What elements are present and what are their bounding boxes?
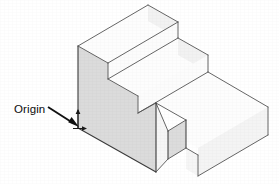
face-lower-slab-front-left <box>156 103 168 172</box>
isometric-figure-container: Origin <box>0 0 279 184</box>
face-lower-slab-notch-front <box>186 148 198 176</box>
origin-label: Origin <box>14 103 45 115</box>
origin-arrowhead-icon <box>68 117 79 127</box>
origin-annotation: Origin <box>14 103 87 131</box>
stepped-block-drawing: Origin <box>0 0 279 184</box>
